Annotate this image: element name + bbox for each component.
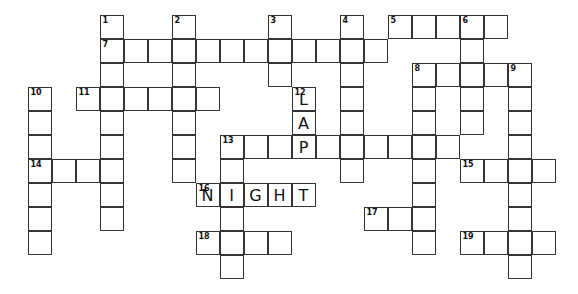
crossword-cell[interactable] [100, 159, 124, 183]
crossword-cell[interactable]: 10 [28, 87, 52, 111]
crossword-cell[interactable] [364, 39, 388, 63]
crossword-cell[interactable] [340, 159, 364, 183]
crossword-cell[interactable] [340, 87, 364, 111]
crossword-cell[interactable] [124, 87, 148, 111]
crossword-cell[interactable] [508, 183, 532, 207]
crossword-cell[interactable] [412, 87, 436, 111]
crossword-cell[interactable] [28, 231, 52, 255]
crossword-cell[interactable] [244, 231, 268, 255]
crossword-cell[interactable] [220, 255, 244, 279]
crossword-cell[interactable]: 19 [460, 231, 484, 255]
crossword-cell[interactable] [340, 135, 364, 159]
crossword-cell[interactable] [100, 87, 124, 111]
crossword-cell[interactable] [484, 159, 508, 183]
crossword-cell[interactable] [172, 159, 196, 183]
crossword-cell[interactable] [484, 15, 508, 39]
crossword-cell[interactable]: 14 [28, 159, 52, 183]
crossword-cell[interactable] [172, 63, 196, 87]
crossword-cell[interactable] [460, 39, 484, 63]
crossword-cell[interactable]: 17 [364, 207, 388, 231]
crossword-cell[interactable] [292, 39, 316, 63]
crossword-cell[interactable] [412, 15, 436, 39]
crossword-cell[interactable]: 7 [100, 39, 124, 63]
crossword-cell[interactable] [460, 63, 484, 87]
crossword-cell[interactable] [172, 111, 196, 135]
crossword-cell[interactable] [436, 63, 460, 87]
crossword-cell[interactable] [220, 231, 244, 255]
crossword-cell[interactable] [412, 207, 436, 231]
crossword-cell[interactable] [28, 135, 52, 159]
crossword-cell[interactable] [484, 231, 508, 255]
crossword-cell[interactable] [268, 39, 292, 63]
crossword-cell[interactable] [508, 159, 532, 183]
crossword-cell[interactable] [268, 231, 292, 255]
crossword-cell[interactable] [244, 39, 268, 63]
crossword-cell[interactable] [100, 207, 124, 231]
crossword-cell[interactable]: G [244, 183, 268, 207]
crossword-cell[interactable]: 6 [460, 15, 484, 39]
crossword-cell[interactable] [196, 87, 220, 111]
crossword-cell[interactable] [268, 63, 292, 87]
crossword-cell[interactable] [388, 207, 412, 231]
crossword-cell[interactable]: I [220, 183, 244, 207]
crossword-cell[interactable] [100, 183, 124, 207]
crossword-cell[interactable] [460, 87, 484, 111]
crossword-cell[interactable]: T [292, 183, 316, 207]
crossword-cell[interactable] [412, 135, 436, 159]
crossword-cell[interactable]: 4 [340, 15, 364, 39]
crossword-cell[interactable]: 5 [388, 15, 412, 39]
crossword-cell[interactable] [436, 135, 460, 159]
crossword-cell[interactable] [340, 111, 364, 135]
crossword-cell[interactable] [148, 39, 172, 63]
crossword-cell[interactable] [28, 183, 52, 207]
crossword-cell[interactable] [196, 39, 220, 63]
crossword-cell[interactable]: 13 [220, 135, 244, 159]
crossword-cell[interactable] [148, 87, 172, 111]
crossword-cell[interactable] [100, 111, 124, 135]
crossword-cell[interactable] [340, 39, 364, 63]
crossword-cell[interactable] [52, 159, 76, 183]
crossword-cell[interactable]: A [292, 111, 316, 135]
crossword-cell[interactable] [436, 15, 460, 39]
crossword-cell[interactable] [340, 63, 364, 87]
crossword-cell[interactable] [364, 135, 388, 159]
crossword-cell[interactable] [220, 207, 244, 231]
crossword-cell[interactable] [484, 63, 508, 87]
crossword-cell[interactable] [508, 231, 532, 255]
crossword-cell[interactable] [532, 231, 556, 255]
crossword-cell[interactable]: 2 [172, 15, 196, 39]
crossword-cell[interactable] [508, 87, 532, 111]
crossword-cell[interactable] [172, 135, 196, 159]
crossword-cell[interactable] [124, 39, 148, 63]
crossword-cell[interactable]: 1 [100, 15, 124, 39]
crossword-cell[interactable]: 9 [508, 63, 532, 87]
crossword-cell[interactable] [244, 135, 268, 159]
crossword-cell[interactable] [412, 231, 436, 255]
crossword-cell[interactable]: 3 [268, 15, 292, 39]
crossword-cell[interactable] [220, 39, 244, 63]
crossword-cell[interactable]: 18 [196, 231, 220, 255]
crossword-cell[interactable] [508, 111, 532, 135]
crossword-cell[interactable]: 11 [76, 87, 100, 111]
crossword-cell[interactable] [508, 255, 532, 279]
crossword-cell[interactable] [316, 39, 340, 63]
crossword-cell[interactable] [76, 159, 100, 183]
crossword-cell[interactable] [532, 159, 556, 183]
crossword-cell[interactable] [220, 159, 244, 183]
crossword-cell[interactable]: 15 [460, 159, 484, 183]
crossword-cell[interactable] [100, 135, 124, 159]
crossword-cell[interactable] [508, 207, 532, 231]
crossword-cell[interactable] [100, 63, 124, 87]
crossword-cell[interactable] [508, 135, 532, 159]
crossword-cell[interactable]: 8 [412, 63, 436, 87]
crossword-cell[interactable] [268, 135, 292, 159]
crossword-cell[interactable]: 12L [292, 87, 316, 111]
crossword-cell[interactable] [412, 183, 436, 207]
crossword-cell[interactable]: 16N [196, 183, 220, 207]
crossword-cell[interactable] [316, 135, 340, 159]
crossword-cell[interactable]: P [292, 135, 316, 159]
crossword-cell[interactable] [412, 159, 436, 183]
crossword-cell[interactable] [172, 39, 196, 63]
crossword-cell[interactable] [172, 87, 196, 111]
crossword-cell[interactable] [388, 135, 412, 159]
